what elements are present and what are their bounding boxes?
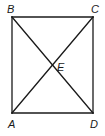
rectangle-diagram: B C E A D — [0, 0, 105, 136]
vertex-label-d: D — [90, 118, 98, 130]
vertex-label-b: B — [7, 3, 14, 15]
vertex-label-c: C — [91, 3, 99, 15]
vertex-label-a: A — [7, 118, 15, 130]
intersection-label-e: E — [57, 61, 65, 73]
